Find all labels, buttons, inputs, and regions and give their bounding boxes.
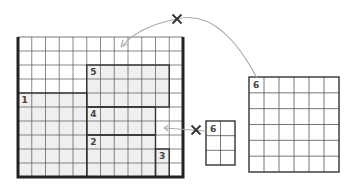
- main-board: 51423: [18, 37, 183, 177]
- region-label: 1: [22, 95, 28, 105]
- region-label: 5: [90, 67, 96, 77]
- region-label: 4: [90, 109, 96, 119]
- piece-label: 6: [210, 124, 216, 134]
- piece-label: 6: [253, 80, 259, 90]
- region-2: [87, 135, 156, 177]
- large-piece-6: 6: [249, 77, 339, 172]
- region-label: 2: [90, 137, 96, 147]
- small-piece-6: 6: [206, 121, 235, 165]
- puzzle-diagram: 51423 6 6: [0, 0, 358, 187]
- region-label: 3: [159, 151, 165, 161]
